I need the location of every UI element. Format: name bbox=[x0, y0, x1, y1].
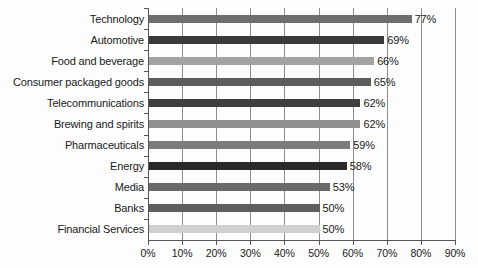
bar bbox=[149, 57, 374, 65]
bar bbox=[149, 204, 320, 212]
bar bbox=[149, 120, 360, 128]
bar-value-label: 66% bbox=[377, 55, 399, 67]
category-label: Banks bbox=[114, 202, 144, 214]
bar-value-label: 62% bbox=[363, 97, 385, 109]
x-axis-tick-label: 20% bbox=[206, 247, 227, 259]
bar-row: Banks50% bbox=[0, 198, 478, 219]
bar-row: Consumer packaged goods65% bbox=[0, 71, 478, 92]
bar bbox=[149, 141, 350, 149]
category-label: Telecommunications bbox=[47, 97, 144, 109]
category-label: Pharmaceuticals bbox=[65, 139, 144, 151]
x-tick-90% bbox=[455, 241, 456, 245]
category-label: Automotive bbox=[90, 34, 144, 46]
y-axis-tick bbox=[144, 113, 149, 114]
bar bbox=[149, 99, 360, 107]
y-axis-tick bbox=[144, 92, 149, 93]
bar-chart: 0%10%20%30%40%50%60%70%80%90% Technology… bbox=[0, 0, 478, 268]
x-tick-20% bbox=[216, 241, 217, 245]
bar-value-label: 62% bbox=[363, 118, 385, 130]
category-label: Brewing and spirits bbox=[54, 118, 144, 130]
x-axis-tick-label: 10% bbox=[172, 247, 193, 259]
bar-value-label: 50% bbox=[323, 202, 345, 214]
x-tick-60% bbox=[353, 241, 354, 245]
bar bbox=[149, 15, 412, 23]
bar-row: Brewing and spirits62% bbox=[0, 113, 478, 134]
bar-row: Food and beverage66% bbox=[0, 50, 478, 71]
y-axis-tick bbox=[144, 219, 149, 220]
x-tick-70% bbox=[387, 241, 388, 245]
bar bbox=[149, 183, 330, 191]
x-axis-tick-label: 70% bbox=[376, 247, 397, 259]
category-label: Energy bbox=[110, 160, 144, 172]
bar-row: Telecommunications62% bbox=[0, 92, 478, 113]
x-axis-tick-label: 90% bbox=[445, 247, 466, 259]
category-label: Financial Services bbox=[57, 223, 144, 235]
bar-row: Financial Services50% bbox=[0, 219, 478, 240]
x-tick-50% bbox=[319, 241, 320, 245]
bar-value-label: 77% bbox=[415, 13, 437, 25]
bar-value-label: 50% bbox=[323, 223, 345, 235]
y-axis-tick bbox=[144, 8, 149, 9]
bar-value-label: 65% bbox=[374, 76, 396, 88]
category-label: Media bbox=[115, 181, 144, 193]
category-label: Consumer packaged goods bbox=[13, 76, 144, 88]
x-axis-tick-label: 40% bbox=[274, 247, 295, 259]
bar-row: Technology77% bbox=[0, 8, 478, 29]
bar-value-label: 53% bbox=[333, 181, 355, 193]
y-axis-tick bbox=[144, 71, 149, 72]
bar-value-label: 69% bbox=[387, 34, 409, 46]
y-axis-tick bbox=[144, 135, 149, 136]
x-tick-30% bbox=[250, 241, 251, 245]
x-axis-tick-label: 30% bbox=[240, 247, 261, 259]
x-tick-0% bbox=[148, 241, 149, 245]
bar-value-label: 58% bbox=[350, 160, 372, 172]
x-axis-tick-label: 50% bbox=[308, 247, 329, 259]
bar bbox=[149, 162, 347, 170]
y-axis-tick bbox=[144, 156, 149, 157]
y-axis-tick bbox=[144, 198, 149, 199]
x-axis-tick-label: 60% bbox=[342, 247, 363, 259]
x-tick-40% bbox=[284, 241, 285, 245]
y-axis-tick bbox=[144, 29, 149, 30]
x-axis-tick-label: 80% bbox=[411, 247, 432, 259]
x-tick-10% bbox=[182, 241, 183, 245]
bar-row: Pharmaceuticals59% bbox=[0, 135, 478, 156]
x-tick-80% bbox=[421, 241, 422, 245]
bar-row: Automotive69% bbox=[0, 29, 478, 50]
bar-row: Media53% bbox=[0, 177, 478, 198]
bar bbox=[149, 36, 384, 44]
x-axis-line bbox=[148, 240, 456, 241]
bar-row: Energy58% bbox=[0, 156, 478, 177]
bar bbox=[149, 78, 371, 86]
bar bbox=[149, 225, 320, 233]
y-axis-tick bbox=[144, 177, 149, 178]
x-axis-tick-label: 0% bbox=[141, 247, 156, 259]
y-axis-tick bbox=[144, 50, 149, 51]
category-label: Food and beverage bbox=[51, 55, 144, 67]
category-label: Technology bbox=[90, 13, 144, 25]
bar-value-label: 59% bbox=[353, 139, 375, 151]
